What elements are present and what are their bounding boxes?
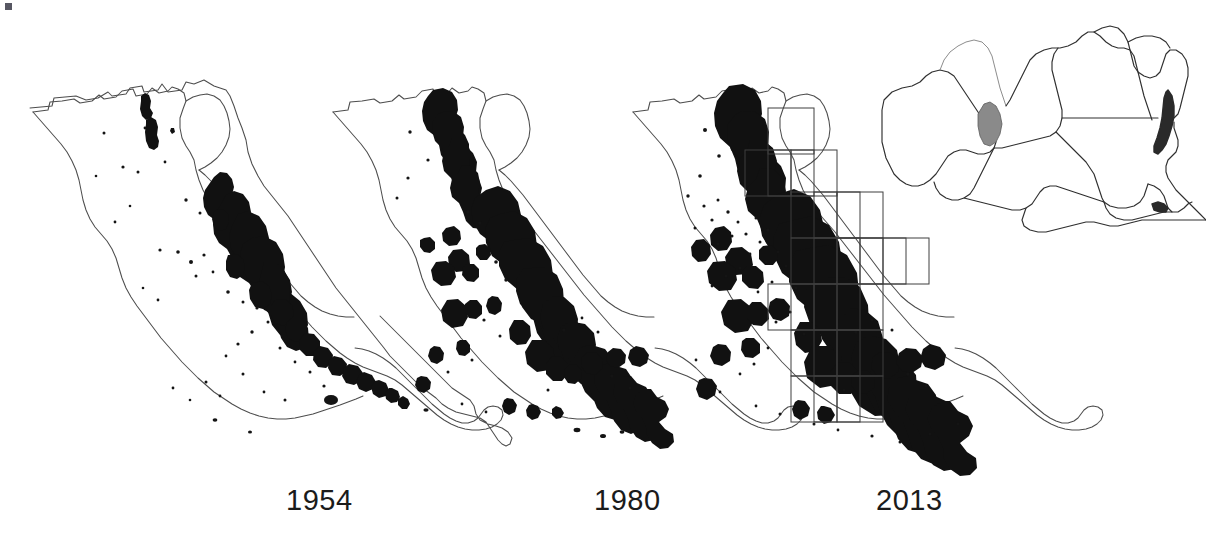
coastline-strip-south [1152,202,1168,212]
inset-northern-italy [882,26,1206,232]
urban-areas-1954 [140,93,410,409]
year-label-1980: 1980 [594,484,661,517]
urban-areas-2013 [691,84,977,476]
maps-vector-layer [0,0,1206,560]
urban-areas-1980 [415,88,674,449]
urban-specks-1954 [95,127,338,434]
grid-cell [768,108,814,154]
coastline-strip [1154,90,1174,154]
figure-canvas: 1954 1980 2013 [0,0,1206,560]
map-2013 [633,84,1103,476]
year-label-1954: 1954 [286,484,353,517]
study-area-highlight [978,102,1002,146]
year-label-2013: 2013 [876,484,943,517]
map-1954 [33,87,503,434]
